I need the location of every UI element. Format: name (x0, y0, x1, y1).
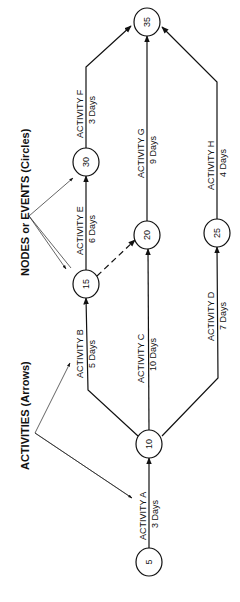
activity-h-duration: 4 Days (218, 148, 228, 177)
node-20: 20 (134, 221, 160, 249)
node-25: 25 (204, 219, 230, 247)
nodes-legend-pointers (29, 178, 73, 269)
node-label: 20 (142, 230, 152, 240)
activity-f-duration: 3 Days (87, 95, 97, 124)
node-30: 30 (73, 148, 99, 176)
activity-c-duration: 10 Days (148, 337, 158, 371)
node-label: 30 (81, 157, 91, 167)
activity-d-name: ACTIVITY D (206, 291, 216, 341)
node-10: 10 (136, 430, 162, 458)
node-35: 35 (134, 8, 160, 36)
activity-e-name: ACTIVITY E (75, 206, 85, 255)
activity-g-duration: 9 Days (148, 135, 158, 164)
activity-h-name: ACTIVITY H (206, 141, 216, 190)
activity-b-duration: 5 Days (87, 339, 97, 368)
activities-legend-pointers (35, 363, 132, 498)
nodes-legend-label: NODES or EVENTS (Circles) (19, 128, 31, 276)
node-label: 5 (144, 559, 154, 564)
activity-g-name: ACTIVITY G (136, 128, 146, 178)
activity-b-name: ACTIVITY B (75, 329, 85, 378)
node-5: 5 (136, 548, 162, 576)
node-label: 25 (212, 228, 222, 238)
activities-pointer-arrow-to-a (35, 433, 132, 498)
nodes-pointer-arrow (29, 178, 73, 268)
activity-f-name: ACTIVITY F (75, 89, 85, 138)
nodes-pointer-arrow-to-15 (29, 216, 66, 269)
node-15: 15 (73, 270, 99, 298)
activity-f-arrow (86, 26, 131, 149)
activity-d-duration: 7 Days (218, 301, 228, 330)
activity-c-name: ACTIVITY C (136, 333, 146, 383)
network-diagram: 5 10 15 20 25 30 35 ACTIVITY A 3 Days AC… (0, 0, 240, 602)
activities-legend-label: ACTIVITIES (Arrows) (19, 361, 31, 470)
node-label: 15 (81, 279, 91, 289)
activities-pointer-arrow (35, 363, 132, 498)
activity-a-name: ACTIVITY A (138, 492, 148, 540)
activity-h-arrow (162, 27, 217, 220)
dummy-activity-arrow (97, 240, 135, 276)
node-label: 10 (144, 439, 154, 449)
activity-a-duration: 3 Days (150, 499, 160, 528)
node-label: 35 (142, 17, 152, 27)
activity-e-duration: 6 Days (87, 214, 97, 243)
